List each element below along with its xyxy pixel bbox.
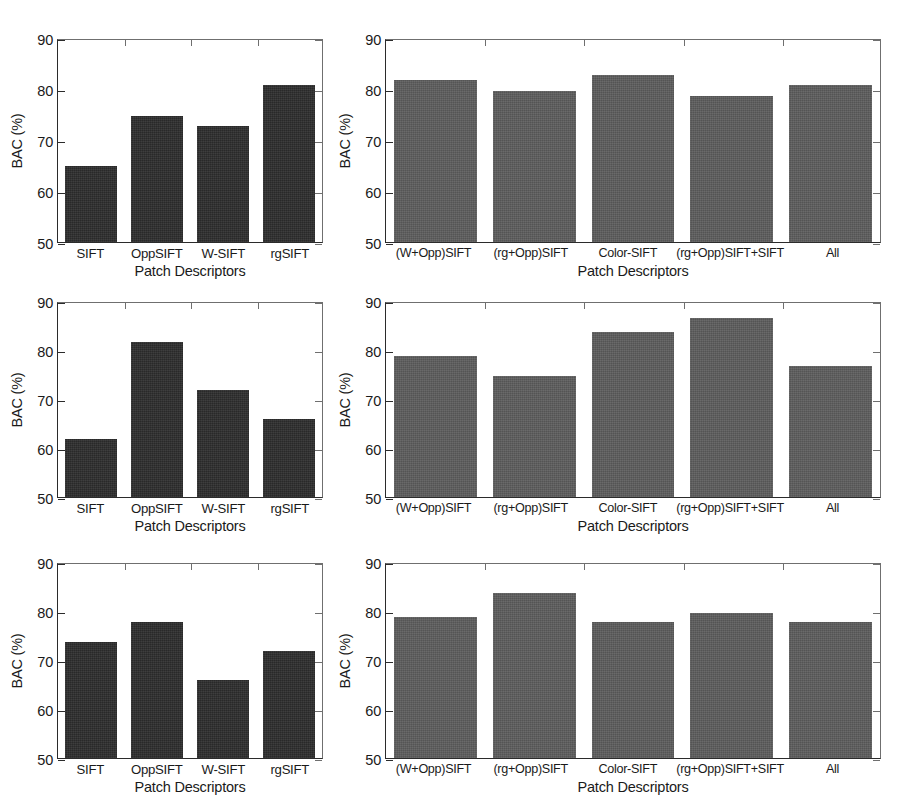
bar[interactable]: [394, 617, 477, 758]
bar[interactable]: [789, 366, 872, 497]
y-tick: [58, 91, 65, 92]
y-tick-label: 90: [37, 296, 53, 311]
y-tick: [58, 662, 65, 663]
y-tick-right: [315, 40, 322, 41]
bar[interactable]: [131, 342, 184, 497]
y-tick: [58, 193, 65, 194]
y-tick-right: [315, 401, 322, 402]
bar[interactable]: [131, 116, 184, 242]
x-tick-top: [783, 40, 784, 46]
y-tick: [58, 40, 65, 41]
y-tick-right: [873, 613, 880, 614]
y-tick-label: 70: [37, 394, 53, 409]
bar-slot: [781, 40, 880, 242]
y-tick: [386, 401, 393, 402]
y-tick: [58, 711, 65, 712]
chart-panel-row3-left: 5060708090: [57, 563, 323, 759]
bar[interactable]: [197, 126, 250, 242]
y-tick: [386, 352, 393, 353]
bar[interactable]: [394, 356, 477, 497]
y-tick: [386, 711, 393, 712]
plot-area: 5060708090: [385, 563, 881, 759]
y-axis-title: BAC (%): [336, 626, 354, 696]
bar-series: [386, 40, 880, 242]
y-axis-title: BAC (%): [336, 106, 354, 176]
y-tick-label: 80: [37, 345, 53, 360]
bar[interactable]: [131, 622, 184, 758]
x-category-label: OppSIFT: [124, 762, 191, 777]
y-tick-label: 50: [365, 492, 381, 507]
y-tick-right: [873, 193, 880, 194]
y-tick-right: [315, 613, 322, 614]
bar-slot: [58, 564, 124, 758]
bar[interactable]: [263, 85, 316, 242]
bar[interactable]: [394, 80, 477, 242]
x-category-label: rgSIFT: [257, 246, 324, 261]
bar-slot: [386, 564, 485, 758]
y-tick: [58, 352, 65, 353]
bar[interactable]: [65, 642, 118, 758]
chart-panel-row1-right: 5060708090: [385, 39, 881, 243]
bar[interactable]: [197, 680, 250, 758]
y-tick-label: 70: [365, 655, 381, 670]
y-tick-right: [873, 142, 880, 143]
x-category-labels: (W+Opp)SIFT(rg+Opp)SIFTColor-SIFT(rg+Opp…: [385, 762, 881, 776]
y-tick-label: 70: [365, 394, 381, 409]
bar[interactable]: [493, 593, 576, 758]
bar[interactable]: [690, 96, 773, 242]
x-category-label: OppSIFT: [124, 501, 191, 516]
bar[interactable]: [592, 332, 675, 497]
bar[interactable]: [789, 85, 872, 242]
bar[interactable]: [789, 622, 872, 758]
chart-panel-row1-left: 5060708090: [57, 39, 323, 243]
y-tick-right: [873, 450, 880, 451]
x-tick-top: [125, 564, 126, 570]
y-tick-right: [315, 450, 322, 451]
y-tick-right: [315, 662, 322, 663]
bar[interactable]: [197, 390, 250, 497]
bar-series: [58, 40, 322, 242]
bar[interactable]: [493, 376, 576, 497]
y-tick-right: [873, 564, 880, 565]
x-tick-top: [684, 303, 685, 309]
bar[interactable]: [690, 613, 773, 759]
x-tick-top: [584, 303, 585, 309]
bar-slot: [256, 303, 322, 497]
bar-slot: [190, 303, 256, 497]
bar[interactable]: [493, 91, 576, 243]
bar-series: [386, 564, 880, 758]
bar-slot: [485, 564, 584, 758]
x-category-labels: SIFTOppSIFTW-SIFTrgSIFT: [57, 762, 323, 777]
bar[interactable]: [65, 166, 118, 242]
x-category-labels: (W+Opp)SIFT(rg+Opp)SIFTColor-SIFT(rg+Opp…: [385, 246, 881, 260]
bar-slot: [682, 564, 781, 758]
bar-slot: [485, 40, 584, 242]
bar[interactable]: [263, 651, 316, 758]
x-tick-top: [684, 564, 685, 570]
y-tick-right: [873, 760, 880, 761]
y-tick: [386, 662, 393, 663]
bar[interactable]: [263, 419, 316, 497]
bar[interactable]: [592, 622, 675, 758]
y-tick-label: 50: [365, 753, 381, 768]
x-tick-top: [783, 564, 784, 570]
y-tick-label: 90: [365, 296, 381, 311]
y-tick-label: 60: [365, 443, 381, 458]
x-tick-top: [258, 303, 259, 309]
x-tick-top: [485, 303, 486, 309]
y-tick-label: 60: [37, 186, 53, 201]
y-tick: [386, 564, 393, 565]
y-tick-label: 60: [365, 704, 381, 719]
y-tick-label: 90: [37, 557, 53, 572]
y-tick-right: [873, 244, 880, 245]
bar[interactable]: [690, 318, 773, 497]
bar-slot: [256, 564, 322, 758]
bar-slot: [58, 40, 124, 242]
x-category-label: (rg+Opp)SIFT: [482, 501, 579, 515]
y-axis-title: BAC (%): [8, 365, 26, 435]
y-tick: [58, 450, 65, 451]
y-tick-right: [315, 303, 322, 304]
bar[interactable]: [592, 75, 675, 242]
bar[interactable]: [65, 439, 118, 497]
x-axis-title: Patch Descriptors: [57, 518, 323, 534]
